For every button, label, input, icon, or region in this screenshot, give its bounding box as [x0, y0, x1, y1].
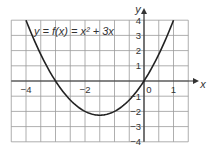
- y-tick-label: 1: [136, 60, 141, 71]
- x-tick-label: −4: [21, 84, 32, 95]
- x-tick-label: 1: [171, 84, 176, 95]
- function-graph: −4−2104321−1−2−3−4xy y = f(x) = x² + 3x: [0, 0, 214, 156]
- y-axis-arrow-icon: [141, 8, 147, 14]
- equation-label: y = f(x) = x² + 3x: [33, 25, 114, 37]
- y-tick-label: 2: [136, 45, 141, 56]
- y-axis-label: y: [134, 3, 142, 15]
- x-axis-arrow-icon: [193, 78, 199, 84]
- y-tick-label: −3: [130, 121, 141, 132]
- y-tick-label: −4: [130, 136, 141, 147]
- y-tick-label: −1: [130, 91, 141, 102]
- origin-label: 0: [146, 84, 151, 95]
- y-tick-label: 3: [136, 30, 141, 41]
- x-axis-label: x: [199, 78, 206, 90]
- y-tick-label: −2: [130, 106, 141, 117]
- x-tick-label: −2: [80, 84, 91, 95]
- y-tick-label: 4: [136, 15, 141, 26]
